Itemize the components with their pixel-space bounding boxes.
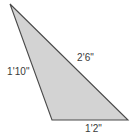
triangle-polygon <box>10 4 128 120</box>
dimension-label-hypotenuse: 2'6" <box>77 52 94 63</box>
dimension-label-bottom-side: 1'2" <box>85 123 102 134</box>
triangle-figure-container: 1'10" 2'6" 1'2" <box>0 0 135 138</box>
dimension-label-left-side: 1'10" <box>7 66 30 77</box>
